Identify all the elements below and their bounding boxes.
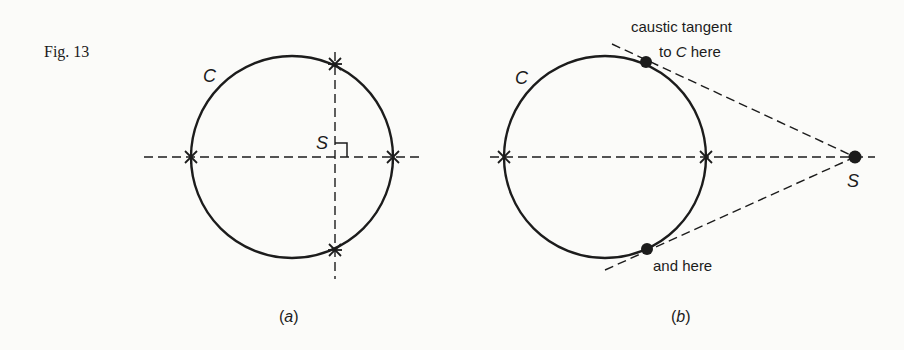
tangent-point-lower: [641, 243, 653, 255]
panel-a: C S (a): [144, 52, 422, 325]
tangent-point-upper: [640, 56, 652, 68]
source-point-s: [849, 151, 862, 164]
lower-tangent-line: [605, 157, 855, 270]
annotation-and-here: and here: [653, 257, 712, 274]
annotation-caustic-line2: to C here: [659, 43, 721, 60]
curve-label-c-b: C: [515, 68, 529, 88]
source-label-s-a: S: [316, 133, 328, 153]
figure-label: Fig. 13: [44, 43, 89, 61]
panel-b: C S caustic tangent to C here and here (…: [490, 18, 875, 325]
annotation-caustic-line1: caustic tangent: [631, 18, 733, 35]
right-angle-marker: [335, 143, 347, 157]
caption-a: (a): [279, 308, 299, 325]
caption-b: (b): [671, 308, 691, 325]
source-label-s-b: S: [847, 171, 859, 191]
figure-canvas: Fig. 13 C S (a): [0, 0, 904, 350]
curve-label-c-a: C: [203, 66, 217, 86]
